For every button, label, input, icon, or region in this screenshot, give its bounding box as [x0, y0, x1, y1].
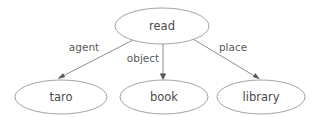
- edge-place-arrowhead: [253, 74, 259, 79]
- graph-svg: agent object place read taro book lib: [0, 0, 318, 117]
- edge-label-object: object: [127, 52, 159, 64]
- node-label-read: read: [149, 19, 175, 33]
- edge-place: place: [193, 39, 259, 79]
- node-taro[interactable]: taro: [15, 80, 107, 114]
- node-library[interactable]: library: [217, 80, 305, 114]
- node-label-book: book: [150, 90, 178, 104]
- edge-label-place: place: [219, 41, 247, 53]
- edge-agent: agent: [58, 40, 133, 79]
- node-book[interactable]: book: [120, 80, 208, 114]
- edge-object-arrowhead: [160, 74, 166, 80]
- edge-agent-arrowhead: [58, 74, 64, 79]
- node-label-library: library: [243, 90, 280, 104]
- edge-label-agent: agent: [69, 41, 99, 53]
- node-read[interactable]: read: [115, 8, 209, 44]
- edge-object: object: [127, 44, 166, 80]
- node-label-taro: taro: [49, 90, 72, 104]
- semantic-graph-canvas: agent object place read taro book lib: [0, 0, 318, 117]
